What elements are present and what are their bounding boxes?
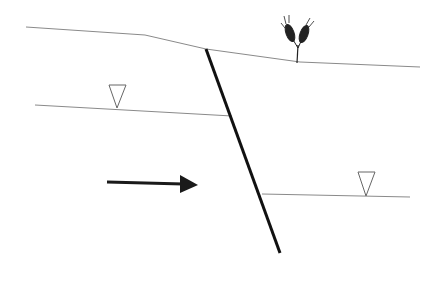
water-table-left-line [35,105,232,116]
flow-arrow-icon [107,175,198,193]
water-table-right-symbol-icon [358,172,375,196]
ground-surface-line [26,27,420,67]
water-table-left-symbol-icon [109,85,126,108]
cross-section-diagram [0,0,442,287]
fault-line [206,49,280,253]
wheat-plant-icon [281,15,314,63]
water-table-right-line [262,194,410,197]
